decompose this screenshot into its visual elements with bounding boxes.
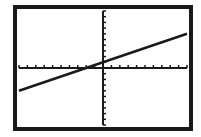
calculator-graph-screen [13, 5, 193, 131]
graph-plot [17, 9, 189, 127]
